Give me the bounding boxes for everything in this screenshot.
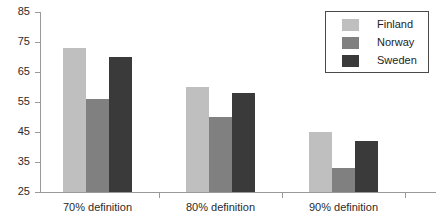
x-axis-line xyxy=(40,192,436,193)
bar-norway-group-2 xyxy=(209,117,232,192)
legend-label-norway: Norway xyxy=(377,36,414,49)
bar-sweden-group-3 xyxy=(355,141,378,192)
x-tick-mark xyxy=(282,193,283,198)
chart-legend: FinlandNorwaySweden xyxy=(325,11,429,73)
x-tick-mark xyxy=(405,193,406,198)
y-tick-label: 45 xyxy=(0,126,30,137)
legend-row-sweden: Sweden xyxy=(326,52,428,69)
legend-swatch-norway xyxy=(342,37,359,49)
legend-row-finland: Finland xyxy=(326,16,428,33)
bar-norway-group-1 xyxy=(86,99,109,192)
bar-finland-group-2 xyxy=(186,87,209,192)
bar-chart: 85756555453525 70% definition80% definit… xyxy=(0,0,436,220)
legend-label-finland: Finland xyxy=(377,18,413,31)
x-tick-label: 80% definition xyxy=(171,201,271,213)
legend-swatch-finland xyxy=(342,19,359,31)
bar-norway-group-3 xyxy=(332,168,355,192)
bar-sweden-group-1 xyxy=(109,57,132,192)
bar-finland-group-3 xyxy=(309,132,332,192)
x-tick-label: 90% definition xyxy=(294,201,394,213)
x-tick-mark xyxy=(159,193,160,198)
y-tick-label: 25 xyxy=(0,186,30,197)
legend-swatch-sweden xyxy=(342,55,359,67)
bar-sweden-group-2 xyxy=(232,93,255,192)
y-tick-label: 55 xyxy=(0,96,30,107)
legend-row-norway: Norway xyxy=(326,34,428,51)
y-tick-label: 65 xyxy=(0,66,30,77)
legend-label-sweden: Sweden xyxy=(377,54,417,67)
y-tick-label: 75 xyxy=(0,36,30,47)
y-tick-label: 35 xyxy=(0,156,30,167)
y-tick-label: 85 xyxy=(0,6,30,17)
x-tick-label: 70% definition xyxy=(48,201,148,213)
bar-finland-group-1 xyxy=(63,48,86,192)
